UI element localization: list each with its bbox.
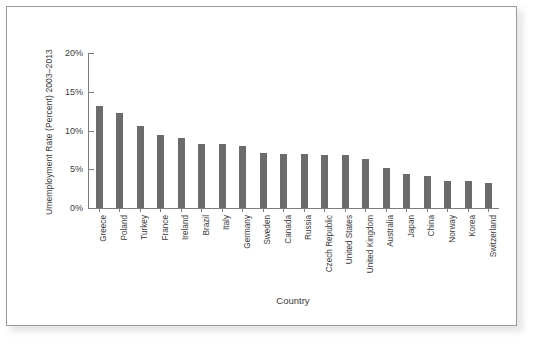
bar-chart: Umemployment Rate (Percent) 2003–2013 20… bbox=[7, 7, 518, 327]
bar-slot bbox=[397, 53, 418, 208]
y-axis-tick-label: 15% bbox=[29, 87, 83, 97]
bar bbox=[342, 155, 349, 208]
x-axis-title: Country bbox=[88, 295, 498, 306]
x-axis-tick-mark bbox=[324, 209, 325, 212]
bar-slot bbox=[110, 53, 131, 208]
x-axis-tick-mark bbox=[447, 209, 448, 212]
x-axis-tick-mark bbox=[263, 209, 264, 212]
x-axis-tick-mark bbox=[283, 209, 284, 212]
x-axis-tick-mark bbox=[488, 209, 489, 212]
bar bbox=[424, 176, 431, 208]
bar bbox=[137, 126, 144, 208]
plot-area bbox=[89, 53, 499, 208]
bar bbox=[301, 154, 308, 208]
x-axis-tick-label: Japan bbox=[407, 215, 416, 237]
x-label-slot: Korea bbox=[458, 213, 479, 291]
x-label-slot: Czech Republic bbox=[315, 213, 336, 291]
x-axis-tick-label: Germany bbox=[243, 215, 252, 249]
x-axis-tick-mark bbox=[304, 209, 305, 212]
x-axis-tick-mark bbox=[406, 209, 407, 212]
y-axis-tick-label: 20% bbox=[29, 48, 83, 58]
bar bbox=[219, 144, 226, 208]
screenshot-root: Umemployment Rate (Percent) 2003–2013 20… bbox=[0, 0, 536, 348]
x-axis-tick-mark bbox=[201, 209, 202, 212]
x-axis-tick-labels: GreecePolandTurkeyFranceIrelandBrazilIta… bbox=[89, 213, 499, 291]
bar bbox=[239, 146, 246, 208]
x-axis-tick-label: China bbox=[427, 215, 436, 236]
x-axis-tick-label: France bbox=[161, 215, 170, 240]
bar bbox=[383, 168, 390, 208]
bar-slot bbox=[151, 53, 172, 208]
x-axis-tick-label: Italy bbox=[222, 215, 231, 230]
x-axis-tick-mark bbox=[386, 209, 387, 212]
bar bbox=[280, 154, 287, 208]
x-axis-tick-label: Switzerland bbox=[489, 215, 498, 257]
bar-slot bbox=[356, 53, 377, 208]
y-axis-tick-label: 5% bbox=[29, 164, 83, 174]
bar-slot bbox=[253, 53, 274, 208]
x-axis-tick-label: United Kingdom bbox=[366, 215, 375, 273]
x-axis-tick-mark bbox=[345, 209, 346, 212]
bar bbox=[444, 181, 451, 208]
x-label-slot: Canada bbox=[274, 213, 295, 291]
bar-slot bbox=[89, 53, 110, 208]
bar-slot bbox=[171, 53, 192, 208]
bar bbox=[321, 155, 328, 208]
x-axis-tick-mark bbox=[119, 209, 120, 212]
x-label-slot: Russia bbox=[294, 213, 315, 291]
x-axis-tick-label: Greece bbox=[99, 215, 108, 242]
x-axis-tick-label: Poland bbox=[120, 215, 129, 241]
bar-slot bbox=[417, 53, 438, 208]
x-label-slot: Ireland bbox=[171, 213, 192, 291]
x-axis-tick-label: Russia bbox=[304, 215, 313, 240]
bar bbox=[157, 135, 164, 208]
x-label-slot: Turkey bbox=[130, 213, 151, 291]
bar-slot bbox=[315, 53, 336, 208]
bar-slot bbox=[479, 53, 500, 208]
bar bbox=[485, 183, 492, 208]
bar bbox=[465, 181, 472, 208]
x-axis-tick-label: Canada bbox=[284, 215, 293, 244]
x-label-slot: Germany bbox=[233, 213, 254, 291]
x-label-slot: Italy bbox=[212, 213, 233, 291]
x-axis-tick-label: United States bbox=[345, 215, 354, 264]
x-label-slot: Switzerland bbox=[479, 213, 500, 291]
bar bbox=[178, 138, 185, 208]
x-label-slot: Sweden bbox=[253, 213, 274, 291]
bar-slot bbox=[458, 53, 479, 208]
x-label-slot: United Kingdom bbox=[356, 213, 377, 291]
x-label-slot: Brazil bbox=[192, 213, 213, 291]
bar-slot bbox=[376, 53, 397, 208]
bar-slot bbox=[294, 53, 315, 208]
bar-slot bbox=[192, 53, 213, 208]
x-axis-tick-mark bbox=[181, 209, 182, 212]
x-axis-tick-label: Australia bbox=[386, 215, 395, 247]
bar bbox=[260, 153, 267, 208]
x-axis-tick-label: Turkey bbox=[140, 215, 149, 240]
bar-slot bbox=[274, 53, 295, 208]
x-label-slot: Poland bbox=[110, 213, 131, 291]
x-axis-tick-label: Sweden bbox=[263, 215, 272, 245]
x-axis-tick-label: Korea bbox=[468, 215, 477, 237]
x-axis-tick-label: Norway bbox=[448, 215, 457, 243]
x-axis-tick-mark bbox=[427, 209, 428, 212]
bar bbox=[198, 144, 205, 208]
x-axis-tick-label: Brazil bbox=[202, 215, 211, 235]
figure-frame: Umemployment Rate (Percent) 2003–2013 20… bbox=[6, 6, 517, 326]
bar bbox=[362, 159, 369, 208]
x-axis-tick-mark bbox=[222, 209, 223, 212]
x-axis-tick-mark bbox=[99, 209, 100, 212]
x-axis-tick-mark bbox=[140, 209, 141, 212]
bar-slot bbox=[438, 53, 459, 208]
bar-slot bbox=[335, 53, 356, 208]
bar-series bbox=[89, 53, 499, 208]
bar bbox=[403, 174, 410, 208]
x-label-slot: United States bbox=[335, 213, 356, 291]
x-axis-tick-mark bbox=[160, 209, 161, 212]
y-axis-tick-label: 0% bbox=[29, 203, 83, 213]
x-axis-tick-mark bbox=[468, 209, 469, 212]
bar-slot bbox=[130, 53, 151, 208]
x-label-slot: Japan bbox=[397, 213, 418, 291]
x-label-slot: Greece bbox=[89, 213, 110, 291]
x-label-slot: Norway bbox=[438, 213, 459, 291]
